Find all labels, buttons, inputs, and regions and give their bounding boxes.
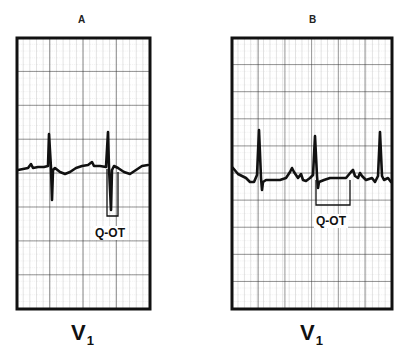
ecg-canvas bbox=[0, 0, 404, 359]
ecg-figure: A B Q-OT Q-OT V1 V1 bbox=[0, 0, 404, 359]
panel-a-lead-label: V1 bbox=[71, 320, 94, 348]
panel-b-qot-label: Q-OT bbox=[314, 214, 348, 228]
panel-b-letter: B bbox=[309, 14, 316, 25]
panel-a-qot-label: Q-OT bbox=[93, 226, 127, 240]
panel-a-letter: A bbox=[78, 14, 85, 25]
lead-name: V bbox=[71, 320, 86, 345]
lead-name: V bbox=[300, 320, 315, 345]
lead-subscript: 1 bbox=[87, 333, 94, 348]
panel-b-lead-label: V1 bbox=[300, 320, 323, 348]
lead-subscript: 1 bbox=[316, 333, 323, 348]
panel-a bbox=[17, 38, 150, 309]
panel-b bbox=[232, 38, 392, 309]
